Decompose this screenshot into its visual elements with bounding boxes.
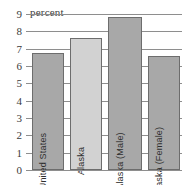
bar-alaska-male: Alaska (Male)	[108, 17, 142, 170]
y-axis-ticks: 9 8 7 6 5 4 3 2 1 0	[0, 0, 22, 185]
bar-chart: percent 9 8 7 6 5 4 3 2 1 0 United State…	[0, 0, 192, 185]
bar-label-united-states: United States	[39, 133, 48, 185]
bar-alaska-female: Alaska (Female)	[148, 56, 180, 170]
y-tick-4: 4	[8, 96, 22, 107]
bar-united-states: United States	[32, 53, 64, 170]
bar-label-alaska-male: Alaska (Male)	[116, 132, 125, 185]
plot-area: United States Alaska Alaska (Male) Alask…	[26, 14, 182, 170]
y-tick-2: 2	[8, 130, 22, 141]
bar-alaska: Alaska	[70, 38, 102, 170]
y-tick-5: 5	[8, 78, 22, 89]
gridline-9	[26, 14, 182, 15]
y-tick-1: 1	[8, 148, 22, 159]
y-tick-8: 8	[8, 26, 22, 37]
y-tick-6: 6	[8, 61, 22, 72]
y-tick-7: 7	[8, 44, 22, 55]
gridline-8	[26, 31, 182, 32]
y-tick-0: 0	[8, 165, 22, 176]
gridline-7	[26, 49, 182, 50]
bar-label-alaska-female: Alaska (Female)	[155, 127, 164, 185]
y-tick-9: 9	[8, 9, 22, 20]
y-tick-3: 3	[8, 113, 22, 124]
x-axis-baseline	[26, 170, 182, 171]
